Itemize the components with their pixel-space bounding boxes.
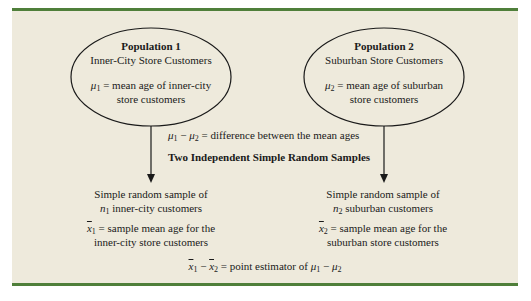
population1-title: Population 1 xyxy=(91,40,211,53)
sample2-line4: suburban store customers xyxy=(308,236,458,249)
samples-heading: Two Independent Simple Random Samples xyxy=(168,151,370,164)
population1-parameter-line2: store customers xyxy=(81,93,221,106)
point-estimator-label: x1 − x2 = point estimator of μ1 − μ2 xyxy=(165,260,365,276)
arrow2-head xyxy=(380,174,388,183)
sample1-line2-text: inner-city customers xyxy=(109,202,202,214)
sample1-line1: Simple random sample of xyxy=(76,188,226,201)
sample2-line2-text: suburban customers xyxy=(343,202,433,214)
arrow1-head xyxy=(147,174,155,183)
population1-subtitle: Inner-City Store Customers xyxy=(81,54,221,67)
difference-text: = difference between the mean ages xyxy=(199,129,360,141)
minus-sign: − xyxy=(197,260,209,272)
sample2-line2: n2 suburban customers xyxy=(308,202,458,218)
population1-param-text: = mean age of inner-city xyxy=(100,79,211,91)
sample2-line1: Simple random sample of xyxy=(308,188,458,201)
estimator-text: = point estimator of xyxy=(218,260,311,272)
population2-parameter-line2: store customers xyxy=(314,93,454,106)
population2-subtitle: Suburban Store Customers xyxy=(314,54,454,67)
difference-label: μ1 − μ2 = difference between the mean ag… xyxy=(168,129,359,145)
population2-param-text: = mean age of suburban xyxy=(335,79,444,91)
sample1-line3-text: = sample mean age for the xyxy=(96,222,215,234)
population2-title: Population 2 xyxy=(324,40,444,53)
minus-sign: − xyxy=(320,260,332,272)
sample2-line3-text: = sample mean age for the xyxy=(328,222,447,234)
mu2-subscript: 2 xyxy=(337,265,341,274)
minus-sign: − xyxy=(178,129,190,141)
sample1-line4: inner-city store customers xyxy=(76,236,226,249)
sample1-line2: n1 inner-city customers xyxy=(76,202,226,218)
